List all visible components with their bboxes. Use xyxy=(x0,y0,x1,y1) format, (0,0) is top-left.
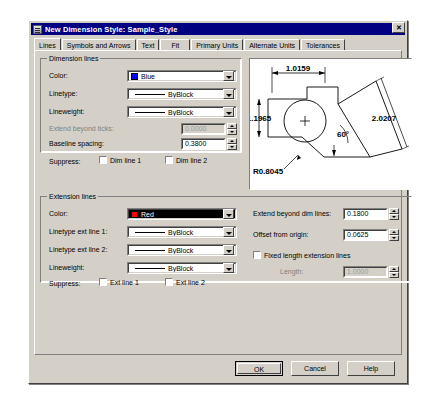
stepper-down-icon[interactable] xyxy=(227,129,237,135)
ext-linetype-2-label: Linetype ext line 2: xyxy=(49,246,107,253)
extend-beyond-ticks-value: 0.0000 xyxy=(185,125,206,132)
length-value: 1.0000 xyxy=(347,268,368,275)
ext-color-label: Color: xyxy=(49,210,68,217)
extend-beyond-dim-lines-value: 0.1800 xyxy=(347,210,368,217)
lineweight-preview-icon xyxy=(135,268,165,269)
cancel-button[interactable]: Cancel xyxy=(291,361,339,376)
stepper-down-icon[interactable] xyxy=(227,144,237,150)
ext-linetype-2-combo[interactable]: ByBlock xyxy=(127,244,237,256)
length-label: Length: xyxy=(280,268,303,275)
preview-drawing: 1.0159 1.1965 2.0207 60° R0.8 xyxy=(250,59,411,189)
dim-lineweight-label: Lineweight: xyxy=(49,108,84,115)
dim-lineweight-combo[interactable]: ByBlock xyxy=(127,106,237,118)
dialog-title: New Dimension Style: Sample_Style xyxy=(45,25,178,34)
stepper-down-icon[interactable] xyxy=(389,235,399,241)
dim-color-value: Blue xyxy=(141,73,155,80)
ext-linetype-1-combo[interactable]: ByBlock xyxy=(127,226,237,238)
checkbox-icon xyxy=(99,278,107,286)
fixed-length-extension-lines-checkbox[interactable]: Fixed length extension lines xyxy=(253,251,350,259)
checkbox-icon xyxy=(253,251,261,259)
preview-dim-left: 1.1965 xyxy=(250,114,272,123)
ok-button[interactable]: OK xyxy=(235,361,283,376)
chevron-down-icon[interactable] xyxy=(223,89,234,99)
dim-lineweight-value: ByBlock xyxy=(168,109,193,116)
dimension-lines-group-title: Dimension lines xyxy=(47,55,100,62)
chevron-down-icon[interactable] xyxy=(223,71,234,81)
ext-color-combo[interactable]: Red xyxy=(127,208,237,220)
extension-lines-group: Extension lines Color: Red Linetype ext … xyxy=(40,196,412,283)
lineweight-preview-icon xyxy=(135,112,165,113)
ext-suppress-label: Suppress: xyxy=(49,280,81,287)
extend-beyond-dim-lines-stepper[interactable]: 0.1800 xyxy=(343,208,399,220)
suppress-dim-line-2-checkbox[interactable]: Dim line 2 xyxy=(165,156,207,164)
chevron-down-icon[interactable] xyxy=(223,209,234,219)
ext-lineweight-combo[interactable]: ByBlock xyxy=(127,262,237,274)
suppress-ext-line-2-label: Ext line 2 xyxy=(176,279,205,286)
fixed-length-extension-lines-label: Fixed length extension lines xyxy=(264,252,350,259)
stepper-down-icon[interactable] xyxy=(389,272,399,278)
suppress-dim-line-1-checkbox[interactable]: Dim line 1 xyxy=(99,156,141,164)
ext-linetype-1-label: Linetype ext line 1: xyxy=(49,228,107,235)
dim-color-combo[interactable]: Blue xyxy=(127,70,237,82)
dim-suppress-label: Suppress: xyxy=(49,158,81,165)
dim-linetype-value: ByBlock xyxy=(168,91,193,98)
chevron-down-icon[interactable] xyxy=(223,227,234,237)
dimension-style-icon xyxy=(33,25,42,34)
offset-from-origin-stepper[interactable]: 0.0625 xyxy=(343,229,399,241)
close-icon[interactable]: ✕ xyxy=(392,22,405,33)
help-button[interactable]: Help xyxy=(347,361,395,376)
baseline-spacing-value: 0.3800 xyxy=(185,140,206,147)
suppress-ext-line-2-checkbox[interactable]: Ext line 2 xyxy=(165,278,205,286)
stepper-down-icon[interactable] xyxy=(389,214,399,220)
ext-lineweight-label: Lineweight: xyxy=(49,264,84,271)
ext-color-value: Red xyxy=(141,211,154,218)
suppress-ext-line-1-checkbox[interactable]: Ext line 1 xyxy=(99,278,139,286)
linetype-preview-icon xyxy=(135,250,165,251)
tab-page-lines: Dimension lines Color: Blue Linetype: By… xyxy=(34,50,402,355)
suppress-dim-line-1-label: Dim line 1 xyxy=(110,157,141,164)
suppress-dim-line-2-label: Dim line 2 xyxy=(176,157,207,164)
checkbox-icon xyxy=(165,278,173,286)
extension-lines-group-title: Extension lines xyxy=(47,193,98,200)
chevron-down-icon[interactable] xyxy=(223,263,234,273)
preview-dim-diagonal: 2.0207 xyxy=(372,114,397,123)
dim-color-swatch xyxy=(131,73,138,80)
ok-button-label: OK xyxy=(237,363,281,374)
dim-linetype-combo[interactable]: ByBlock xyxy=(127,88,237,100)
checkbox-icon xyxy=(99,156,107,164)
offset-from-origin-value: 0.0625 xyxy=(347,231,368,238)
preview-dim-radius: R0.8045 xyxy=(253,167,284,176)
extend-beyond-ticks-stepper[interactable]: 0.0000 xyxy=(181,123,237,135)
dim-color-label: Color: xyxy=(49,72,68,79)
dialog-titlebar[interactable]: New Dimension Style: Sample_Style xyxy=(31,23,405,35)
extend-beyond-dim-lines-label: Extend beyond dim lines: xyxy=(253,210,331,217)
new-dimension-style-dialog: New Dimension Style: Sample_Style ✕ Line… xyxy=(28,20,408,384)
offset-from-origin-label: Offset from origin: xyxy=(253,231,309,238)
ext-color-swatch xyxy=(131,211,138,218)
ext-linetype-1-value: ByBlock xyxy=(168,229,193,236)
ext-lineweight-value: ByBlock xyxy=(168,265,193,272)
preview-dim-top: 1.0159 xyxy=(286,64,311,73)
suppress-ext-line-1-label: Ext line 1 xyxy=(110,279,139,286)
dim-linetype-label: Linetype: xyxy=(49,90,77,97)
checkbox-icon xyxy=(165,156,173,164)
length-stepper[interactable]: 1.0000 xyxy=(343,266,399,278)
baseline-spacing-label: Baseline spacing: xyxy=(49,140,104,147)
linetype-preview-icon xyxy=(135,94,165,95)
linetype-preview-icon xyxy=(135,232,165,233)
dimension-lines-group: Dimension lines Color: Blue Linetype: By… xyxy=(40,58,242,153)
ext-linetype-2-value: ByBlock xyxy=(168,247,193,254)
baseline-spacing-stepper[interactable]: 0.3800 xyxy=(181,138,237,150)
chevron-down-icon[interactable] xyxy=(223,245,234,255)
dimension-style-preview: 1.0159 1.1965 2.0207 60° R0.8 xyxy=(249,58,412,190)
chevron-down-icon[interactable] xyxy=(223,107,234,117)
extend-beyond-ticks-label: Extend beyond ticks: xyxy=(49,125,114,132)
preview-dim-angle: 60° xyxy=(337,130,349,139)
